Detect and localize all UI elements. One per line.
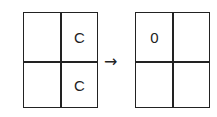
after-cell-0-1 [173, 13, 210, 61]
before-cell-0-0 [24, 13, 61, 61]
before-cell-1-1: C [61, 61, 98, 109]
before-cell-0-1: C [61, 13, 98, 61]
after-grid: 0 [135, 12, 210, 108]
right-arrow-icon: → [104, 52, 117, 71]
before-grid: C C [23, 12, 98, 108]
before-cell-1-0 [24, 61, 61, 109]
after-cell-0-0: 0 [136, 13, 173, 61]
after-cell-1-0 [136, 61, 173, 109]
after-cell-1-1 [173, 61, 210, 109]
